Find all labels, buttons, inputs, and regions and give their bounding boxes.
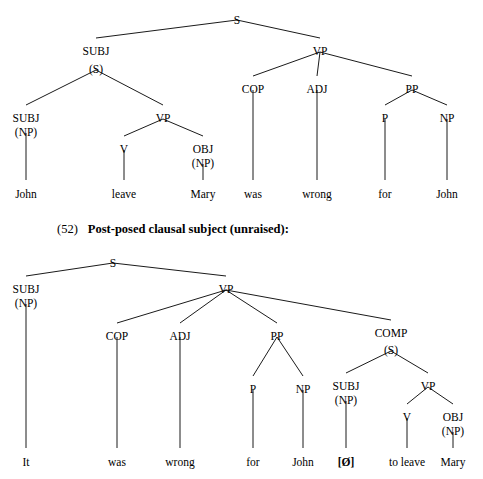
tree-edge bbox=[113, 263, 226, 276]
tree-lines bbox=[0, 0, 483, 479]
tree-edge bbox=[320, 52, 412, 76]
tree-edge bbox=[96, 70, 163, 105]
figure-caption: (52)Post-posed clausal subject (unraised… bbox=[57, 222, 289, 237]
tree-node: leave bbox=[112, 188, 136, 200]
tree-edge bbox=[117, 290, 226, 323]
tree-node: VP bbox=[219, 283, 234, 295]
tree-node: VP bbox=[156, 112, 171, 124]
tree-node: COMP bbox=[375, 327, 408, 339]
tree-node: John bbox=[292, 456, 314, 468]
tree-node: V bbox=[403, 411, 411, 423]
tree-node: NP bbox=[440, 112, 455, 124]
tree-node: ADJ bbox=[169, 330, 190, 342]
tree-node: John bbox=[436, 188, 458, 200]
tree-node: John bbox=[15, 188, 37, 200]
tree-node: P bbox=[250, 383, 256, 395]
tree-edge bbox=[226, 290, 391, 320]
tree-node: S bbox=[234, 14, 240, 26]
tree-edge bbox=[26, 263, 113, 276]
tree-edge bbox=[26, 70, 96, 105]
tree-node: (NP) bbox=[15, 297, 37, 309]
tree-node: for bbox=[378, 188, 391, 200]
tree-node: SUBJ bbox=[333, 380, 360, 392]
tree-node: (S) bbox=[89, 63, 103, 75]
tree-node: was bbox=[108, 456, 126, 468]
tree-edge bbox=[253, 52, 320, 76]
tree-node: VP bbox=[421, 380, 436, 392]
tree-node: PP bbox=[271, 330, 284, 342]
tree-node: PP bbox=[406, 83, 419, 95]
tree-node: COP bbox=[106, 330, 128, 342]
tree-node: NP bbox=[296, 383, 311, 395]
tree-node: wrong bbox=[165, 456, 194, 468]
tree-node: SUBJ bbox=[13, 112, 40, 124]
tree-node: Mary bbox=[191, 188, 216, 200]
tree-node: OBJ bbox=[443, 411, 463, 423]
tree-node: S bbox=[110, 257, 116, 269]
tree-node: SUBJ bbox=[83, 45, 110, 57]
tree-edge bbox=[96, 20, 237, 38]
tree-node: It bbox=[22, 456, 29, 468]
tree-edge bbox=[237, 20, 320, 38]
tree-node: ADJ bbox=[306, 83, 327, 95]
figure-container: SSUBJVP(S)COPADJPPSUBJ(NP)VPPNPVOBJ(NP)J… bbox=[0, 0, 483, 479]
tree-node: was bbox=[244, 188, 262, 200]
tree-edge bbox=[253, 337, 277, 376]
tree-node: V bbox=[120, 143, 128, 155]
caption-number: (52) bbox=[57, 222, 78, 236]
tree-node: for bbox=[246, 456, 259, 468]
caption-title: Post-posed clausal subject (unraised): bbox=[88, 222, 289, 236]
tree-node: P bbox=[382, 112, 388, 124]
tree-node: COP bbox=[242, 83, 264, 95]
tree-node: (NP) bbox=[15, 126, 37, 138]
tree-node: (S) bbox=[384, 344, 398, 356]
tree-node: [Ø] bbox=[338, 456, 355, 468]
tree-edge bbox=[277, 337, 303, 376]
tree-node: Mary bbox=[441, 456, 466, 468]
tree-node: to leave bbox=[389, 456, 425, 468]
tree-node: (NP) bbox=[335, 394, 357, 406]
tree-node: (NP) bbox=[442, 425, 464, 437]
tree-node: wrong bbox=[302, 188, 331, 200]
tree-node: (NP) bbox=[192, 157, 214, 169]
tree-node: VP bbox=[313, 45, 328, 57]
tree-node: SUBJ bbox=[13, 283, 40, 295]
tree-node: OBJ bbox=[193, 143, 213, 155]
